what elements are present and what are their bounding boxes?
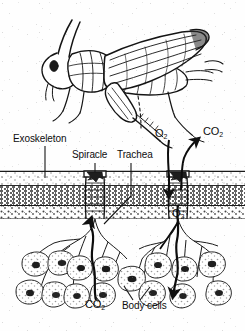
label-oxygen-intake-subscript: 2 <box>163 133 167 140</box>
label-body-cells: Body cells <box>122 301 167 311</box>
label-oxygen-in-trachea: O2 <box>172 208 184 218</box>
label-trachea: Trachea <box>117 150 153 160</box>
label-carbon-dioxide-exhaust-text: CO <box>203 125 219 137</box>
label-exoskeleton: Exoskeleton <box>13 134 66 144</box>
body-wall-cross-section <box>0 0 245 331</box>
label-spiracle: Spiracle <box>72 150 107 160</box>
respiration-diagram-figure: Exoskeleton Spiracle Trachea O2 CO2 O2 C… <box>0 0 245 331</box>
label-oxygen-in-trachea-subscript: 2 <box>180 213 184 220</box>
label-carbon-dioxide-from-cells: CO2 <box>85 299 105 309</box>
label-carbon-dioxide-from-cells-subscript: 2 <box>101 304 105 311</box>
label-carbon-dioxide-exhaust-subscript: 2 <box>219 131 223 138</box>
exoskeleton-layers <box>0 172 245 220</box>
label-oxygen-intake: O2 <box>155 128 167 138</box>
label-carbon-dioxide-from-cells-text: CO <box>85 298 101 310</box>
label-carbon-dioxide-exhaust: CO2 <box>203 126 223 136</box>
